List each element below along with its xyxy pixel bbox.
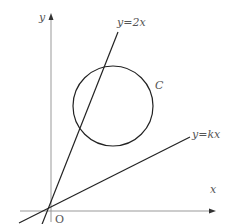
x-axis-arrow-icon <box>209 209 216 214</box>
label-y-axis: y <box>38 11 46 24</box>
label-circle-c: C <box>155 79 164 92</box>
y-axis-arrow-icon <box>49 13 54 20</box>
line-y-kx <box>19 137 190 223</box>
coordinate-diagram: y=2x y=kx C O x y <box>0 0 228 224</box>
label-y-kx: y=kx <box>191 128 221 141</box>
circle-c <box>73 66 153 146</box>
label-x-axis: x <box>210 183 217 196</box>
x-axis <box>20 209 216 214</box>
label-y-2x: y=2x <box>116 16 146 29</box>
label-origin: O <box>55 213 64 224</box>
line-y-2x <box>37 32 118 224</box>
y-axis <box>49 13 54 222</box>
